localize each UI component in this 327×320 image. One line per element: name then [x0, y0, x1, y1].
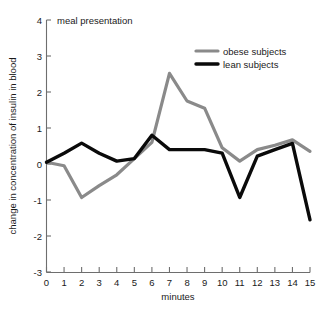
data-series-group — [47, 73, 311, 220]
x-tick-label: 5 — [132, 277, 137, 288]
x-tick-label: 2 — [79, 277, 84, 288]
chart-canvas: 4 3 2 1 0 -1 -2 -3 012345678910111213141… — [0, 0, 327, 320]
x-tick-label: 12 — [252, 277, 263, 288]
x-axis-ticks — [47, 267, 311, 273]
x-tick-label: 7 — [167, 277, 172, 288]
y-tick-label: 4 — [37, 15, 42, 26]
meal-presentation-annotation: meal presentation — [57, 15, 133, 26]
x-tick-label: 14 — [287, 277, 298, 288]
y-tick-label: 0 — [37, 159, 42, 170]
y-axis-title: change in concentration of insulin in bl… — [7, 58, 18, 235]
x-axis-title: minutes — [161, 291, 195, 302]
y-axis-ticks — [47, 20, 52, 272]
x-tick-label: 9 — [202, 277, 207, 288]
insulin-response-chart: 4 3 2 1 0 -1 -2 -3 012345678910111213141… — [0, 0, 327, 320]
legend-label-obese: obese subjects — [223, 46, 287, 57]
series-line-obese — [47, 73, 311, 197]
x-tick-label: 11 — [235, 277, 245, 288]
legend-label-lean: lean subjects — [223, 59, 279, 70]
x-tick-label: 8 — [184, 277, 189, 288]
y-tick-label: -3 — [34, 267, 42, 278]
x-tick-label: 10 — [217, 277, 228, 288]
y-tick-label: 2 — [37, 87, 42, 98]
y-tick-label: 3 — [37, 51, 42, 62]
x-axis-tick-labels: 0123456789101112131415 — [44, 277, 315, 288]
x-tick-label: 0 — [44, 277, 49, 288]
y-axis-tick-labels: 4 3 2 1 0 -1 -2 -3 — [34, 15, 42, 278]
x-tick-label: 4 — [114, 277, 119, 288]
x-tick-label: 13 — [270, 277, 281, 288]
x-tick-label: 3 — [97, 277, 102, 288]
x-tick-label: 15 — [305, 277, 316, 288]
x-tick-label: 6 — [149, 277, 154, 288]
y-tick-label: -2 — [34, 231, 42, 242]
x-tick-label: 1 — [61, 277, 66, 288]
y-tick-label: 1 — [37, 123, 42, 134]
chart-legend: obese subjects lean subjects — [196, 46, 287, 70]
y-tick-label: -1 — [34, 195, 42, 206]
